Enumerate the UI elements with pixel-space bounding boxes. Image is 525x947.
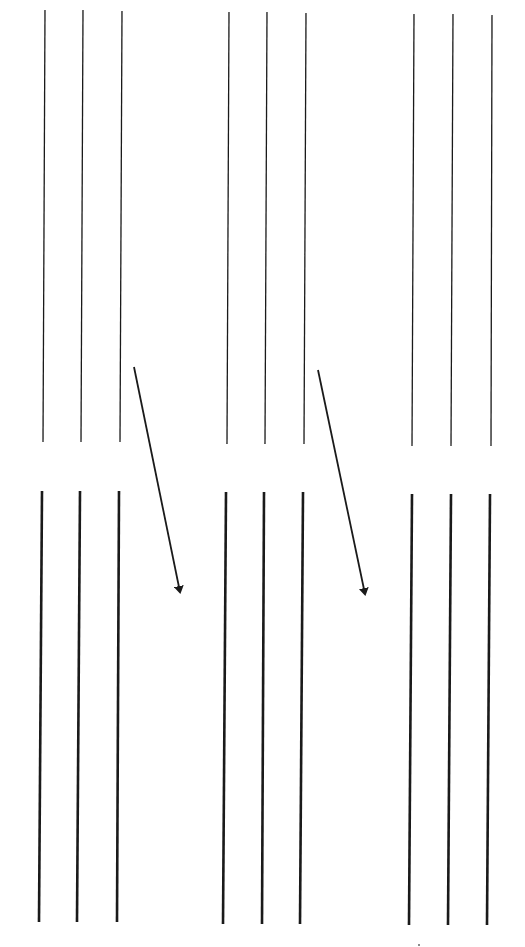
- stray-marks: [418, 944, 420, 946]
- thin-line: [412, 14, 414, 446]
- thick-line: [117, 491, 119, 922]
- thin-line-row: [43, 10, 492, 446]
- thin-group-1: [43, 10, 122, 442]
- thick-group-1: [39, 491, 119, 922]
- thick-line-row: [39, 491, 490, 925]
- thick-line: [223, 492, 226, 924]
- thin-line: [120, 11, 122, 442]
- diagram-canvas: [0, 0, 525, 947]
- thin-line: [227, 12, 229, 444]
- stray-dot: [418, 944, 420, 946]
- arrow-icon: [134, 367, 180, 592]
- thick-group-2: [223, 492, 303, 924]
- thin-line: [451, 14, 453, 446]
- thin-group-3: [412, 14, 492, 446]
- thin-line: [81, 10, 83, 442]
- thin-line: [491, 15, 492, 446]
- thick-line: [39, 491, 42, 922]
- thick-line: [262, 492, 264, 924]
- thick-group-3: [409, 494, 490, 925]
- thick-line: [487, 494, 490, 925]
- thick-line: [448, 494, 451, 925]
- thin-group-2: [227, 12, 306, 444]
- thick-line: [300, 492, 303, 924]
- thin-line: [265, 12, 267, 444]
- thin-line: [43, 10, 45, 442]
- arrow-icon: [318, 370, 365, 594]
- transition-arrows: [134, 367, 365, 594]
- thick-line: [409, 494, 412, 925]
- thick-line: [77, 491, 80, 922]
- thin-line: [304, 13, 306, 444]
